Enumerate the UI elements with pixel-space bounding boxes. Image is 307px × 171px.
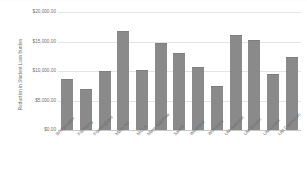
x-label-slot: Fitchburg [77, 131, 96, 171]
y-axis-tick-label: $0.00 [12, 127, 56, 132]
x-label-slot: UM Amherst [226, 131, 245, 171]
x-axis-tick-labels: BridgewaterFitchburgFraminghamMass ArtMC… [58, 131, 301, 171]
bar-slot [58, 12, 77, 130]
bar-slot [245, 12, 264, 130]
bar-slot [114, 12, 133, 130]
x-label-slot: Framingham [95, 131, 114, 171]
y-axis-tick-label: $15,000.00 [12, 39, 56, 44]
bar-slot [189, 12, 208, 130]
bar[interactable] [173, 53, 185, 130]
bar-slot [226, 12, 245, 130]
bar-slot [170, 12, 189, 130]
bar-slot [95, 12, 114, 130]
x-label-slot: Bridgewater [58, 131, 77, 171]
x-label-slot: Salem [170, 131, 189, 171]
x-label-slot: MCLA [133, 131, 152, 171]
bar-slot [264, 12, 283, 130]
x-label-slot: Westfield [189, 131, 208, 171]
x-label-slot: Mass Maritime [151, 131, 170, 171]
x-label-slot: UM Boston [245, 131, 264, 171]
bar-chart: Reduction in Student Loan burden $20,000… [0, 0, 307, 171]
bar-slot [208, 12, 227, 130]
y-axis-tick-label: $20,000.00 [12, 9, 56, 14]
bar-slot [133, 12, 152, 130]
y-axis-tick-labels: $20,000.00$15,000.00$10,000.00$5,000.00$… [12, 0, 56, 171]
bar[interactable] [136, 70, 148, 130]
plot-area [58, 12, 301, 130]
bar-series [58, 12, 301, 130]
x-label-slot: UM Dartmouth [282, 131, 301, 171]
bar[interactable] [117, 31, 129, 130]
x-label-slot: UM Lowell [264, 131, 283, 171]
y-axis-tick-label: $10,000.00 [12, 68, 56, 73]
bar-slot [77, 12, 96, 130]
y-axis-tick-label: $5,000.00 [12, 98, 56, 103]
x-label-slot: Mass Art [114, 131, 133, 171]
x-label-slot: Worcester [208, 131, 227, 171]
